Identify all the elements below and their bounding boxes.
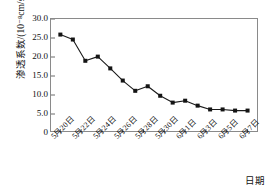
permeability-coefficient-chart: 渗透系数/(10⁻⁸cm/s) 05.010.015.020.025.030.0… xyxy=(0,0,271,190)
series-markers xyxy=(58,33,249,113)
y-axis-tick-label: 15.0 xyxy=(14,71,48,80)
y-axis-tick-marks xyxy=(51,19,55,114)
data-point-marker xyxy=(158,94,162,98)
data-point-marker xyxy=(246,109,250,113)
data-point-marker xyxy=(133,89,137,93)
series-line xyxy=(60,35,247,111)
x-axis-title: 日期 xyxy=(245,173,265,187)
x-axis-tick-labels: 5月20日5月22日5月24日5月26日5月28日5月30日6月1日6月3日6月… xyxy=(50,133,265,173)
data-point-marker xyxy=(96,55,100,59)
data-point-marker xyxy=(233,109,237,113)
y-axis-tick-label: 0 xyxy=(14,128,48,137)
y-axis-tick-label: 5.0 xyxy=(14,109,48,118)
y-axis-tick-labels: 05.010.015.020.025.030.0 xyxy=(10,0,48,190)
data-point-marker xyxy=(83,59,87,63)
y-axis-tick-label: 20.0 xyxy=(14,52,48,61)
data-point-marker xyxy=(171,101,175,105)
data-point-marker xyxy=(208,107,212,111)
data-point-marker xyxy=(221,107,225,111)
data-point-marker xyxy=(183,99,187,103)
y-axis-tick-label: 30.0 xyxy=(14,14,48,23)
data-point-marker xyxy=(108,66,112,70)
data-point-marker xyxy=(58,33,62,37)
y-axis-tick-label: 25.0 xyxy=(14,33,48,42)
data-point-marker xyxy=(121,79,125,83)
data-point-marker xyxy=(146,84,150,88)
data-point-marker xyxy=(196,104,200,108)
y-axis-tick-label: 10.0 xyxy=(14,90,48,99)
data-point-marker xyxy=(71,38,75,42)
